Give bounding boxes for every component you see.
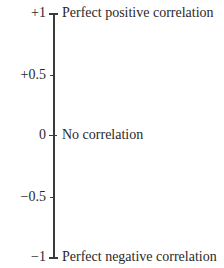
tick-label-zero: 0 [39,128,46,142]
tick-label-plus-0-5: +0.5 [21,68,46,82]
tick-minus-0-5 [50,197,55,198]
description-no-correlation: No correlation [62,128,143,142]
top-cap-tick [49,13,58,15]
tick-zero [49,135,57,136]
tick-label-minus-1: −1 [31,250,46,264]
correlation-scale: +1 Perfect positive correlation +0.5 0 N… [0,0,224,268]
tick-label-minus-0-5: −0.5 [21,190,46,204]
tick-plus-0-5 [50,75,55,76]
description-perfect-positive: Perfect positive correlation [62,6,214,20]
tick-label-plus-1: +1 [31,6,46,20]
description-perfect-negative: Perfect negative correlation [62,250,217,264]
bottom-cap-tick [49,257,58,259]
